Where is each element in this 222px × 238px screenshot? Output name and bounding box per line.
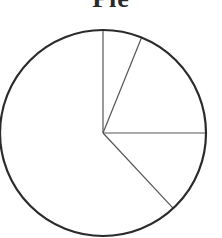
pie-chart [0, 0, 222, 238]
